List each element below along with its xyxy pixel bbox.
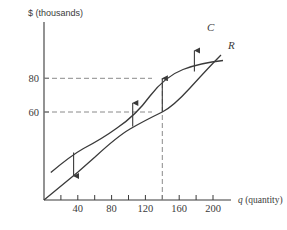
x-axis-ticks [61, 195, 213, 200]
y-axis-ticks [44, 78, 49, 112]
x-tick-label-120: 120 [138, 203, 154, 214]
curve-label-C: C [207, 21, 215, 33]
figure-canvas: $ (thousands) 40 80 120 160 200 80 60 [0, 0, 287, 230]
y-tick-label-60: 60 [29, 107, 40, 118]
x-axis-title: q (quantity) [238, 195, 283, 206]
x-tick-label-80: 80 [106, 203, 117, 214]
revenue-curve-R [44, 55, 221, 200]
chart-svg: $ (thousands) 40 80 120 160 200 80 60 [0, 0, 287, 230]
curve-label-R: R [227, 39, 235, 51]
y-axis-title: $ (thousands) [28, 8, 83, 18]
y-tick-label-80: 80 [29, 73, 40, 84]
x-tick-label-160: 160 [171, 203, 187, 214]
cost-curve-C [51, 61, 223, 173]
x-tick-label-40: 40 [73, 203, 84, 214]
x-axis-title-rest: (quantity) [243, 195, 283, 206]
x-tick-label-200: 200 [205, 203, 221, 214]
